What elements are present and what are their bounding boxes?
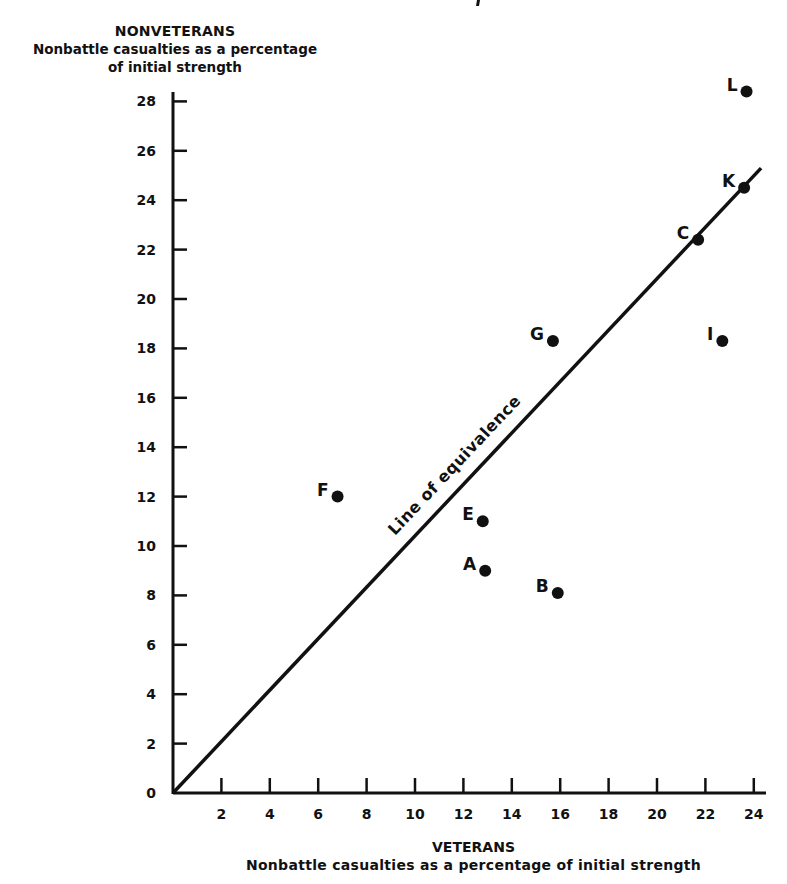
data-point-label: G bbox=[530, 324, 544, 344]
data-point-i: I bbox=[707, 324, 728, 347]
y-tick-label: 16 bbox=[137, 390, 156, 406]
x-axis-title-sub: Nonbattle casualties as a percentage of … bbox=[160, 856, 787, 874]
x-tick-label: 8 bbox=[362, 806, 372, 822]
data-point-label: C bbox=[677, 223, 689, 243]
line-of-equivalence: Line of equivalence bbox=[173, 168, 761, 793]
data-points: LKCGIFEAB bbox=[317, 75, 753, 599]
y-tick-label: 2 bbox=[146, 736, 156, 752]
data-point-label: L bbox=[727, 75, 738, 95]
y-tick-label: 28 bbox=[137, 93, 156, 109]
data-point-e: E bbox=[462, 504, 489, 527]
x-tick-label: 12 bbox=[454, 806, 473, 822]
data-point-label: E bbox=[462, 504, 474, 524]
data-point-marker bbox=[716, 335, 728, 347]
x-tick-label: 16 bbox=[550, 806, 569, 822]
data-point-label: F bbox=[317, 480, 329, 500]
data-point-f: F bbox=[317, 480, 344, 503]
y-tick-label: 0 bbox=[146, 785, 156, 801]
data-point-marker bbox=[692, 234, 704, 246]
data-point-label: I bbox=[707, 324, 713, 344]
y-tick-label: 8 bbox=[146, 587, 156, 603]
equivalence-line-label: Line of equivalence bbox=[384, 391, 525, 539]
data-point-a: A bbox=[463, 554, 491, 577]
equivalence-line bbox=[173, 168, 761, 793]
y-tick-label: 14 bbox=[137, 439, 157, 455]
data-point-b: B bbox=[536, 576, 564, 599]
data-point-label: B bbox=[536, 576, 549, 596]
data-point-g: G bbox=[530, 324, 559, 347]
scatter-plot: 0246810121416182022242628246810121416182… bbox=[0, 0, 787, 884]
x-tick-label: 10 bbox=[405, 806, 425, 822]
data-point-marker bbox=[738, 182, 750, 194]
x-tick-label: 22 bbox=[696, 806, 715, 822]
data-point-marker bbox=[552, 587, 564, 599]
y-tick-label: 20 bbox=[137, 291, 157, 307]
y-tick-label: 24 bbox=[137, 192, 157, 208]
x-tick-label: 2 bbox=[217, 806, 227, 822]
data-point-marker bbox=[332, 491, 344, 503]
x-tick-label: 24 bbox=[744, 806, 764, 822]
x-axis-title: VETERANS Nonbattle casualties as a perce… bbox=[160, 838, 787, 874]
y-tick-label: 22 bbox=[137, 242, 156, 258]
data-point-label: A bbox=[463, 554, 477, 574]
data-point-l: L bbox=[727, 75, 753, 98]
data-point-marker bbox=[547, 335, 559, 347]
data-point-marker bbox=[479, 565, 491, 577]
x-axis-title-head: VETERANS bbox=[160, 838, 787, 856]
x-tick-label: 18 bbox=[599, 806, 618, 822]
y-tick-label: 26 bbox=[137, 143, 156, 159]
x-tick-label: 20 bbox=[647, 806, 667, 822]
print-artifact bbox=[476, 0, 480, 6]
y-tick-label: 6 bbox=[146, 637, 156, 653]
data-point-label: K bbox=[722, 171, 736, 191]
data-point-marker bbox=[477, 515, 489, 527]
data-point-marker bbox=[741, 86, 753, 98]
data-point-k: K bbox=[722, 171, 750, 194]
y-tick-label: 12 bbox=[137, 489, 156, 505]
x-tick-label: 4 bbox=[265, 806, 275, 822]
y-tick-label: 10 bbox=[137, 538, 157, 554]
x-tick-label: 14 bbox=[502, 806, 522, 822]
y-tick-label: 4 bbox=[146, 686, 156, 702]
y-tick-label: 18 bbox=[137, 340, 156, 356]
x-tick-label: 6 bbox=[313, 806, 323, 822]
